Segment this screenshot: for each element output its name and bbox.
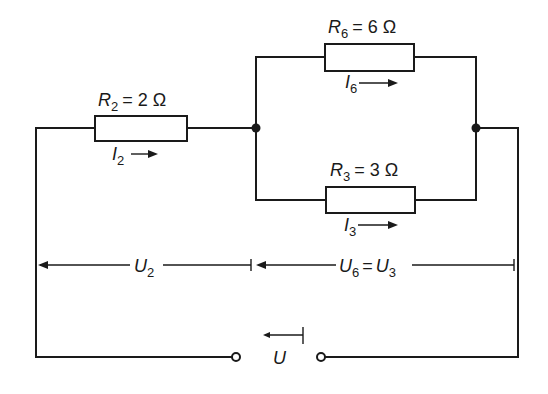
right-wire — [321, 128, 518, 357]
terminal-left — [232, 353, 240, 361]
left-wire — [36, 128, 233, 357]
resistor-r3 — [326, 187, 415, 213]
i6-arrow-icon — [359, 79, 398, 87]
i3-label: I3 — [344, 215, 356, 239]
source-voltage-arrow-icon — [263, 327, 303, 344]
circuit-diagram: R2= 2 Ω I2 R6= 6 Ω I6 R3= 3 Ω I3 U2 — [0, 0, 548, 394]
r3-label: R3= 3 Ω — [330, 160, 398, 184]
terminal-right — [317, 353, 325, 361]
resistor-r6 — [325, 44, 414, 71]
left-parallel-wire — [256, 57, 326, 200]
i3-arrow-icon — [358, 221, 398, 229]
left-junction-node — [252, 124, 261, 133]
r6-label: R6= 6 Ω — [328, 17, 396, 41]
u6-u3-label: U6=U3 — [339, 256, 396, 280]
source-voltage-label: U — [273, 348, 287, 368]
u2-label: U2 — [134, 256, 154, 280]
r2-label: R2= 2 Ω — [98, 90, 166, 114]
i6-label: I6 — [345, 72, 357, 96]
i2-arrow-icon — [131, 150, 158, 158]
resistor-r2 — [95, 116, 187, 141]
i2-label: I2 — [112, 144, 124, 168]
right-junction-node — [472, 124, 481, 133]
right-parallel-wire — [414, 57, 476, 200]
